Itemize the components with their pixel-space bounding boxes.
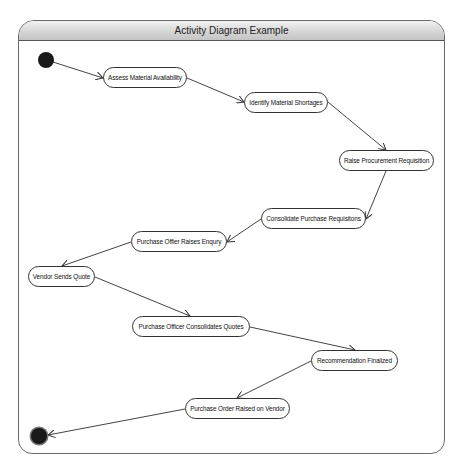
flow-po-to-end bbox=[48, 409, 185, 435]
flow-enquiry-to-vendor bbox=[62, 242, 131, 266]
flow-consolidate-to-enquiry bbox=[227, 219, 261, 242]
flow-quotes-to-recommendation bbox=[250, 327, 355, 350]
flow-vendor-to-quotes bbox=[95, 277, 190, 316]
activity-raise-procurement-requisition[interactable]: Raise Procurement Requisition bbox=[339, 150, 434, 171]
activity-recommendation-finalized[interactable]: Recommendation Finalized bbox=[311, 350, 398, 371]
activity-purchase-officer-consolidates-quotes[interactable]: Purchase Officer Consolidates Quotes bbox=[132, 316, 250, 337]
activity-identify-material-shortages[interactable]: Identify Material Shortages bbox=[244, 92, 328, 113]
activity-assess-material-availability[interactable]: Assess Material Availability bbox=[103, 67, 187, 88]
final-node bbox=[31, 428, 47, 444]
flow-recommendation-to-po bbox=[237, 361, 311, 398]
flow-identify-to-raise bbox=[328, 102, 386, 150]
activity-purchase-order-raised-on-vendor[interactable]: Purchase Order Raised on Vendor bbox=[185, 398, 290, 419]
flow-raise-to-consolidate bbox=[366, 171, 386, 219]
flow-start-to-assess bbox=[53, 62, 103, 78]
activity-consolidate-purchase-requisitions[interactable]: Consolidate Purchase Requisitons bbox=[261, 208, 366, 229]
initial-node bbox=[38, 52, 54, 68]
activity-vendor-sends-quote[interactable]: Vendor Sends Quote bbox=[28, 266, 95, 287]
diagram-canvas: Activity Diagram Example Assess Material… bbox=[0, 0, 461, 468]
activity-purchase-officer-raises-enquiry[interactable]: Purchase Offier Raises Enqury bbox=[131, 231, 227, 252]
flow-assess-to-identify bbox=[187, 78, 244, 102]
